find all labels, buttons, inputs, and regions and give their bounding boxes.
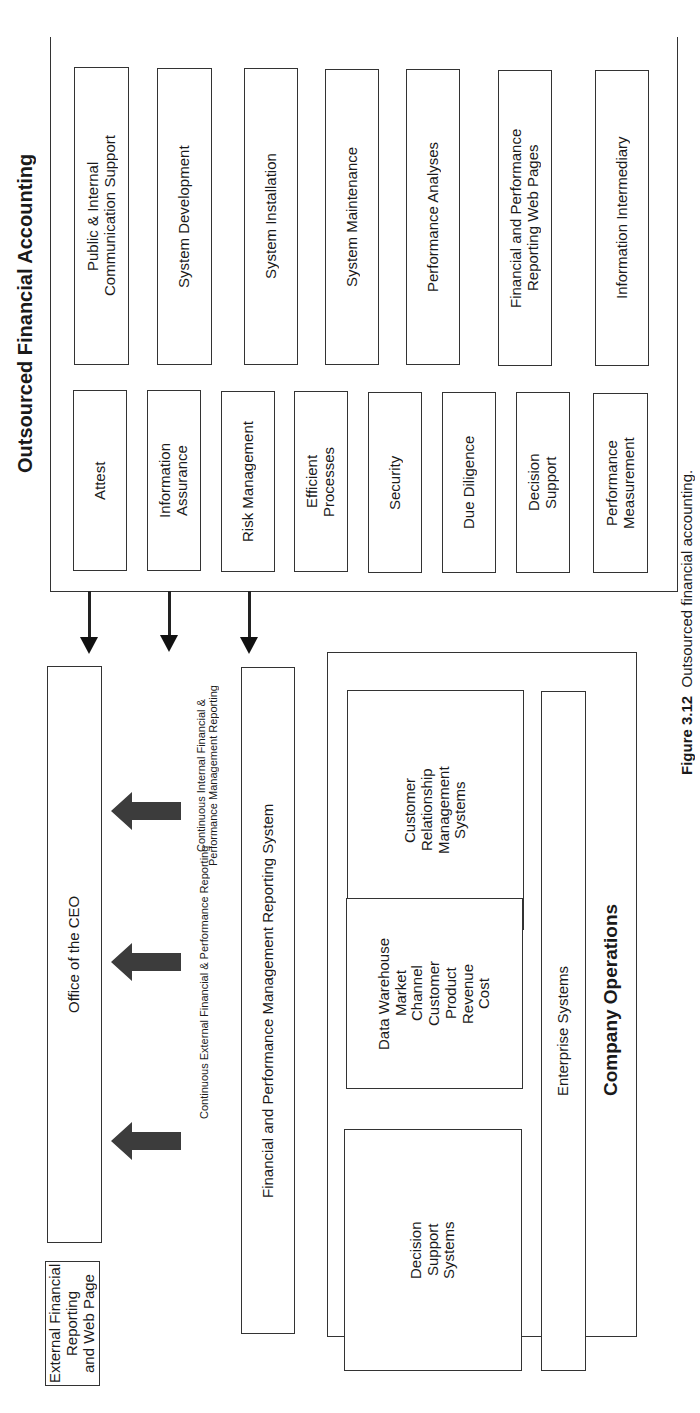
enterprise-systems-box: Enterprise Systems: [541, 691, 586, 1371]
data-warehouse-box: Data Warehouse Market Channel Customer P…: [346, 898, 523, 1089]
enterprise-systems-label: Enterprise Systems: [542, 692, 585, 1370]
fpm-reporting-system-box: Financial and Performance Management Rep…: [241, 667, 295, 1334]
service-label: Public & Internal Communication Support: [75, 68, 128, 364]
data-warehouse-label: Data Warehouse Market Channel Customer P…: [347, 899, 522, 1088]
service-risk-management: Risk Management: [221, 391, 275, 572]
fpm-reporting-system-label: Financial and Performance Management Rep…: [242, 668, 294, 1333]
service-system-development: System Development: [157, 68, 212, 365]
service-label: Financial and Performance Reporting Web …: [499, 71, 551, 365]
service-label: Attest: [74, 391, 126, 570]
service-label: Risk Management: [222, 392, 274, 571]
service-label: Due Diligence: [443, 393, 495, 572]
service-due-diligence: Due Diligence: [442, 392, 496, 573]
service-public-internal-communication-support: Public & Internal Communication Support: [74, 67, 129, 365]
fat-arrow-left-icon: [111, 943, 181, 981]
service-label: Security: [369, 393, 421, 572]
office-of-ceo-label: Office of the CEO: [48, 667, 101, 1242]
arrow-shaft-to-internal: [168, 591, 171, 637]
fat-arrow-left-icon: [111, 792, 181, 830]
service-label: System Development: [158, 69, 211, 364]
service-system-installation: System Installation: [244, 68, 298, 365]
service-information-intermediary: Information Intermediary: [595, 70, 649, 366]
service-label: Decision Support: [517, 393, 569, 572]
service-system-maintenance: System Maintenance: [325, 69, 379, 365]
service-label: Performance Analyses: [407, 70, 459, 364]
decision-support-label: Decision Support Systems: [345, 1130, 521, 1370]
arrow-down-icon: [240, 637, 258, 654]
ofa-title: Outsourced Financial Accounting: [10, 36, 40, 591]
service-label: Information Assurance: [148, 391, 200, 570]
crm-label: Customer Relationship Management Systems: [348, 691, 523, 929]
decision-support-systems-box: Decision Support Systems: [344, 1129, 522, 1371]
service-label: Performance Measurement: [594, 394, 647, 572]
service-performance-analyses: Performance Analyses: [406, 69, 460, 365]
service-performance-measurement: Performance Measurement: [593, 393, 648, 573]
service-label: Efficient Processes: [295, 392, 347, 571]
arrow-shaft-to-ceo: [88, 591, 91, 639]
service-information-assurance: Information Assurance: [147, 390, 201, 571]
service-label: System Installation: [245, 69, 297, 364]
office-of-ceo-box: Office of the CEO: [47, 666, 102, 1243]
service-label: Information Intermediary: [596, 71, 648, 365]
fat-arrow-left-icon: [111, 1122, 181, 1160]
company-operations-title: Company Operations: [594, 690, 628, 1310]
service-financial-performance-reporting-web-pages: Financial and Performance Reporting Web …: [498, 70, 552, 366]
crm-systems-box: Customer Relationship Management Systems: [347, 690, 524, 930]
service-efficient-processes: Efficient Processes: [294, 391, 348, 572]
service-label: System Maintenance: [326, 70, 378, 364]
figure-caption: Figure 3.12 Outsourced financial account…: [670, 470, 700, 1030]
external-reporting-box: External Financial Reporting and Web Pag…: [45, 1261, 100, 1386]
arrow-down-icon: [160, 635, 178, 652]
arrow-shaft-to-fpmrs: [248, 591, 251, 639]
arrow-down-icon: [80, 637, 98, 654]
service-security: Security: [368, 392, 422, 573]
service-decision-support: Decision Support: [516, 392, 570, 573]
service-attest: Attest: [73, 390, 127, 571]
external-reporting-flow-label: Continuous External Financial & Performa…: [194, 770, 214, 1195]
figure-caption-text: Outsourced financial accounting.: [678, 470, 695, 688]
external-reporting-label: External Financial Reporting and Web Pag…: [46, 1262, 99, 1385]
figure-number: Figure 3.12: [678, 696, 695, 775]
